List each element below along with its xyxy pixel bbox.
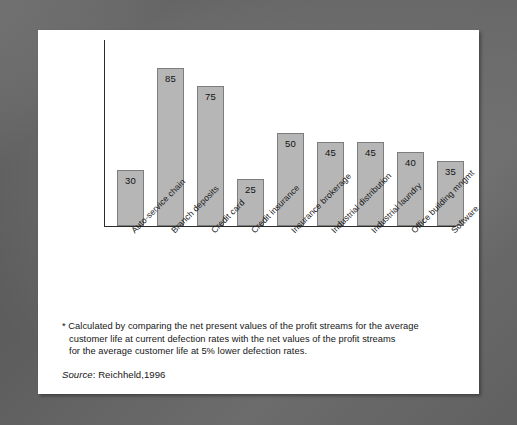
source-line: Source: Reichheld,1996 — [62, 369, 466, 380]
bar-value-label: 30 — [118, 175, 143, 186]
footnote-line-2: customer life at current defection rates… — [62, 333, 466, 346]
source-text: : Reichheld,1996 — [93, 369, 166, 380]
bar-value-label: 75 — [198, 91, 223, 102]
footnote-block: * Calculated by comparing the net presen… — [62, 320, 466, 380]
bar-chart: 308575255045454035 Auto-service chainBra… — [38, 30, 479, 302]
footnote-line-3: for the average customer life at 5% lowe… — [62, 345, 466, 358]
source-label: Source — [62, 369, 93, 380]
x-axis-line — [104, 226, 456, 227]
scanned-page-background: 308575255045454035 Auto-service chainBra… — [0, 0, 517, 425]
footnote-line-1: * Calculated by comparing the net presen… — [62, 320, 466, 333]
category-axis-labels: Auto-service chainBranch depositsCredit … — [104, 228, 484, 302]
bar-value-label: 50 — [278, 138, 303, 149]
bar-5: 50 — [277, 133, 304, 226]
figure-card: 308575255045454035 Auto-service chainBra… — [38, 30, 479, 394]
bar-value-label: 25 — [238, 184, 263, 195]
bar-value-label: 45 — [358, 147, 383, 158]
bar-value-label: 45 — [318, 147, 343, 158]
bar-value-label: 40 — [398, 157, 423, 168]
bar-value-label: 85 — [158, 73, 183, 84]
bar-value-label: 35 — [438, 166, 463, 177]
